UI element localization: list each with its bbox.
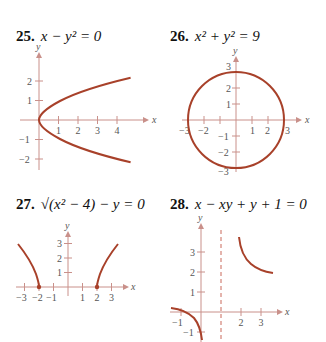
svg-text:−1: −1 <box>46 292 57 303</box>
svg-text:−1: −1 <box>218 131 229 142</box>
x-arrow-icon <box>123 284 129 290</box>
graph-26: x y −3 −2 1 2 3 3 2 1 −1 −2 −3 <box>179 45 310 177</box>
svg-text:y: y <box>35 41 41 52</box>
x-arrow-icon <box>277 309 283 315</box>
y-arrow-icon <box>36 52 42 58</box>
svg-text:−2: −2 <box>19 154 30 165</box>
left-branch-curve <box>18 244 39 287</box>
svg-text:3: 3 <box>109 292 114 303</box>
svg-text:x: x <box>304 114 310 125</box>
y-arrow-icon <box>65 231 71 237</box>
svg-text:1: 1 <box>190 287 195 298</box>
svg-text:2: 2 <box>95 292 100 303</box>
svg-text:1: 1 <box>250 125 255 136</box>
svg-text:3: 3 <box>259 317 264 328</box>
svg-text:x: x <box>284 306 290 317</box>
right-branch-curve <box>239 237 273 273</box>
svg-text:−2: −2 <box>218 147 229 158</box>
svg-text:−2: −2 <box>32 292 43 303</box>
svg-text:y: y <box>64 220 70 231</box>
svg-text:−1: −1 <box>183 327 194 338</box>
svg-text:2: 2 <box>239 317 244 328</box>
graphs-canvas: x y 1 2 3 4 2 1 −1 −2 x y −3 −2 1 <box>0 0 326 342</box>
svg-text:−3: −3 <box>16 292 27 303</box>
svg-text:2: 2 <box>57 253 62 264</box>
svg-text:y: y <box>232 45 238 56</box>
svg-text:2: 2 <box>265 125 270 136</box>
svg-text:3: 3 <box>190 247 195 258</box>
graph-27: x y −3 −2 −1 1 2 3 1 2 3 <box>16 220 136 303</box>
svg-text:1: 1 <box>56 125 61 136</box>
x-arrow-icon <box>296 117 302 123</box>
svg-text:x: x <box>130 281 136 292</box>
svg-text:−2: −2 <box>198 125 209 136</box>
graph-25: x y 1 2 3 4 2 1 −1 −2 <box>19 41 157 170</box>
y-arrow-icon <box>233 56 239 62</box>
svg-text:−1: −1 <box>172 317 183 328</box>
svg-text:−1: −1 <box>19 134 30 145</box>
svg-text:1: 1 <box>27 95 32 106</box>
x-arrow-icon <box>143 117 149 123</box>
svg-text:x: x <box>151 114 157 125</box>
svg-text:2: 2 <box>76 125 81 136</box>
graph-28: x y −1 2 3 −1 1 2 3 <box>170 212 290 342</box>
svg-text:2: 2 <box>226 83 231 94</box>
svg-text:1: 1 <box>80 292 85 303</box>
svg-text:1: 1 <box>226 99 231 110</box>
svg-text:2: 2 <box>190 267 195 278</box>
point-2-0 <box>95 285 99 289</box>
svg-text:4: 4 <box>115 125 120 136</box>
right-branch-curve <box>97 244 118 287</box>
svg-text:2: 2 <box>27 76 32 87</box>
svg-text:3: 3 <box>285 125 290 136</box>
svg-text:3: 3 <box>226 61 231 72</box>
point-neg2-0 <box>37 285 41 289</box>
svg-text:1: 1 <box>57 267 62 278</box>
svg-text:3: 3 <box>57 238 62 249</box>
svg-text:3: 3 <box>95 125 100 136</box>
svg-text:y: y <box>197 212 203 223</box>
y-arrow-icon <box>198 223 204 229</box>
